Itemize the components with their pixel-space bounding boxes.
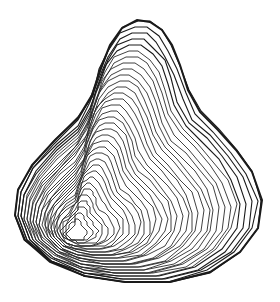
contour-rendering: [0, 0, 280, 302]
contour-surface: [0, 0, 280, 302]
